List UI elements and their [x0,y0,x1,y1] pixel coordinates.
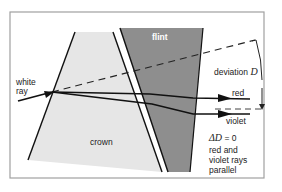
deviation-symbol: D [250,66,257,77]
label-delta-d: ΔD = 0 [209,133,237,143]
label-deviation: deviation D [214,67,258,77]
label-crown: crown [90,137,113,147]
conclusion-line-3: parallel [209,165,236,175]
label-red: red [232,88,244,98]
delta-d-symbol: ΔD [209,132,222,143]
label-flint: flint [152,32,168,42]
conclusion-line-2: violet rays [209,155,247,165]
delta-d-value: = 0 [224,133,236,143]
diagram-root: white ray flint crown deviation D red vi… [0,0,282,192]
deviation-text: deviation [214,67,248,77]
label-violet: violet [226,116,246,126]
conclusion-line-1: red and [209,145,238,155]
label-ray: ray [16,86,28,96]
